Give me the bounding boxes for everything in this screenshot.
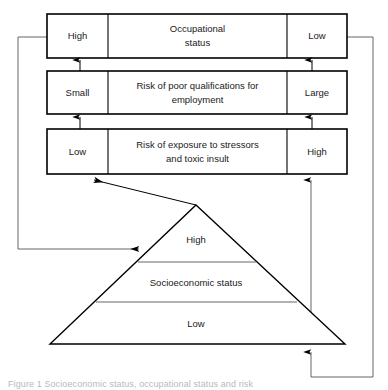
pyramid-bottom-label: Low xyxy=(187,318,205,329)
figure-caption: Figure 1 Socioeconomic status, occupatio… xyxy=(8,379,378,390)
box-2-center-label-line2: employment xyxy=(172,94,224,105)
box-3-right-label: High xyxy=(307,146,327,157)
box-2-left-label: Small xyxy=(66,87,90,98)
box-1-center-label-line2: status xyxy=(185,37,211,48)
pyramid-socioeconomic-status: High Socioeconomic status Low xyxy=(50,205,345,344)
box-3-left-label: Low xyxy=(69,146,87,157)
box-risk-exposure-stressors: Low Risk of exposure to stressors and to… xyxy=(47,129,347,174)
connector-pyramid-apex-to-box3-diagonal xyxy=(94,180,196,205)
pyramid-top-label: High xyxy=(186,234,206,245)
box-occupational-status: High Occupational status Low xyxy=(47,14,347,58)
box-2-center-label-line1: Risk of poor qualifications for xyxy=(137,80,259,91)
box-3-center-label-line1: Risk of exposure to stressors xyxy=(136,139,259,150)
diagram-canvas: High Occupational status Low Small Risk … xyxy=(0,0,388,390)
box-2-right-label: Large xyxy=(305,87,329,98)
box-1-left-label: High xyxy=(68,30,88,41)
box-1-right-label: Low xyxy=(308,30,326,41)
figure-root: High Occupational status Low Small Risk … xyxy=(0,0,388,390)
pyramid-middle-label: Socioeconomic status xyxy=(150,277,243,288)
box-risk-poor-qualifications: Small Risk of poor qualifications for em… xyxy=(47,71,347,114)
box-3-center-label-line2: and toxic insult xyxy=(166,153,229,164)
box-1-center-label-line1: Occupational xyxy=(170,23,225,34)
